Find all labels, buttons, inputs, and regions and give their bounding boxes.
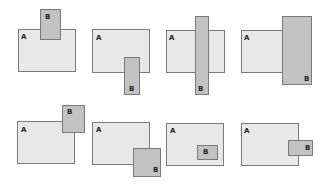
diagram-panel-1: AB bbox=[0, 0, 329, 185]
rectangle-b-label: B bbox=[305, 145, 310, 152]
rectangle-a bbox=[17, 121, 75, 164]
rectangle-a-label: A bbox=[244, 128, 249, 135]
rectangle-a bbox=[18, 29, 76, 72]
diagram-panel-2: AB bbox=[0, 0, 329, 185]
diagram-panel-8: AB bbox=[0, 0, 329, 185]
rectangle-a-label: A bbox=[21, 127, 26, 134]
rectangle-b-label: B bbox=[153, 167, 158, 174]
rectangle-a bbox=[166, 123, 224, 166]
rectangle-b-label: B bbox=[304, 76, 309, 83]
diagram-panel-3: AB bbox=[0, 0, 329, 185]
rectangle-b-label: B bbox=[129, 86, 134, 93]
rectangle-a-label: A bbox=[96, 127, 101, 134]
rectangle-a-label: A bbox=[244, 35, 249, 42]
rectangle-b-label: B bbox=[45, 14, 50, 21]
rectangle-b bbox=[282, 16, 312, 85]
rectangle-a-label: A bbox=[170, 128, 175, 135]
rectangle-b-label: B bbox=[67, 109, 72, 116]
rectangle-a bbox=[166, 30, 225, 73]
diagram-panel-7: AB bbox=[0, 0, 329, 185]
rectangle-b-label: B bbox=[203, 149, 208, 156]
rectangle-a-label: A bbox=[169, 35, 174, 42]
rectangle-a bbox=[241, 30, 283, 73]
rectangle-b bbox=[124, 57, 140, 95]
rectangle-a-label: A bbox=[21, 34, 26, 41]
diagram-panel-5: AB bbox=[0, 0, 329, 185]
rectangle-b-label: B bbox=[198, 86, 203, 93]
rectangle-b bbox=[288, 140, 313, 156]
rectangle-b bbox=[62, 105, 85, 133]
rectangle-b bbox=[40, 9, 61, 40]
diagram-panel-6: AB bbox=[0, 0, 329, 185]
rectangle-a bbox=[92, 122, 150, 165]
rectangle-a bbox=[241, 123, 299, 166]
rectangle-b bbox=[195, 16, 209, 95]
diagram-panel-4: AB bbox=[0, 0, 329, 185]
rectangle-a-label: A bbox=[96, 35, 101, 42]
rectangle-b bbox=[197, 145, 218, 160]
rectangle-b bbox=[133, 148, 161, 177]
rectangle-a bbox=[92, 29, 150, 73]
